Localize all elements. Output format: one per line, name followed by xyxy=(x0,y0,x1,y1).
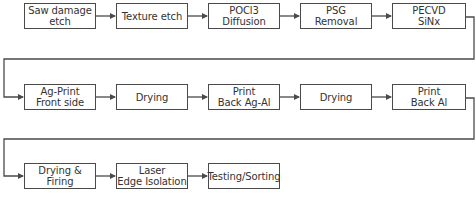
step-drying-1: Drying xyxy=(116,84,188,110)
step-laser-edge-isolation: Laser Edge Isolation xyxy=(116,163,188,189)
step-ag-print-front-side: Ag-Print Front side xyxy=(24,84,96,110)
step-saw-damage-etch: Saw damage etch xyxy=(24,3,96,29)
step-drying-firing: Drying & Firing xyxy=(24,163,96,189)
step-texture-etch: Texture etch xyxy=(116,3,188,29)
step-psg-removal: PSG Removal xyxy=(300,3,372,29)
step-pecvd-sinx: PECVD SiNx xyxy=(392,3,466,29)
step-drying-2: Drying xyxy=(300,84,372,110)
step-pocl3-diffusion: POCl3 Diffusion xyxy=(208,3,280,29)
step-print-back-ag-al: Print Back Ag-Al xyxy=(208,84,280,110)
step-print-back-al: Print Back Al xyxy=(392,84,466,110)
step-testing-sorting: Testing/Sorting xyxy=(208,163,280,189)
